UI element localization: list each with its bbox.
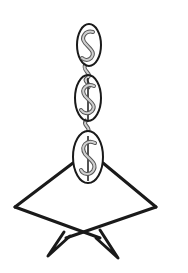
dollar-medallion-bottom bbox=[15, 131, 156, 207]
right-leg bbox=[96, 230, 118, 258]
money-chain-figure bbox=[0, 0, 188, 273]
diamond-body bbox=[15, 207, 156, 238]
dollar-medallion-middle bbox=[75, 75, 101, 121]
dollar-medallion-top bbox=[77, 24, 101, 66]
left-leg bbox=[48, 232, 70, 256]
illustration-canvas: Line drawing of a chain of three dollar-… bbox=[0, 0, 188, 273]
crossed-legs bbox=[48, 230, 118, 258]
